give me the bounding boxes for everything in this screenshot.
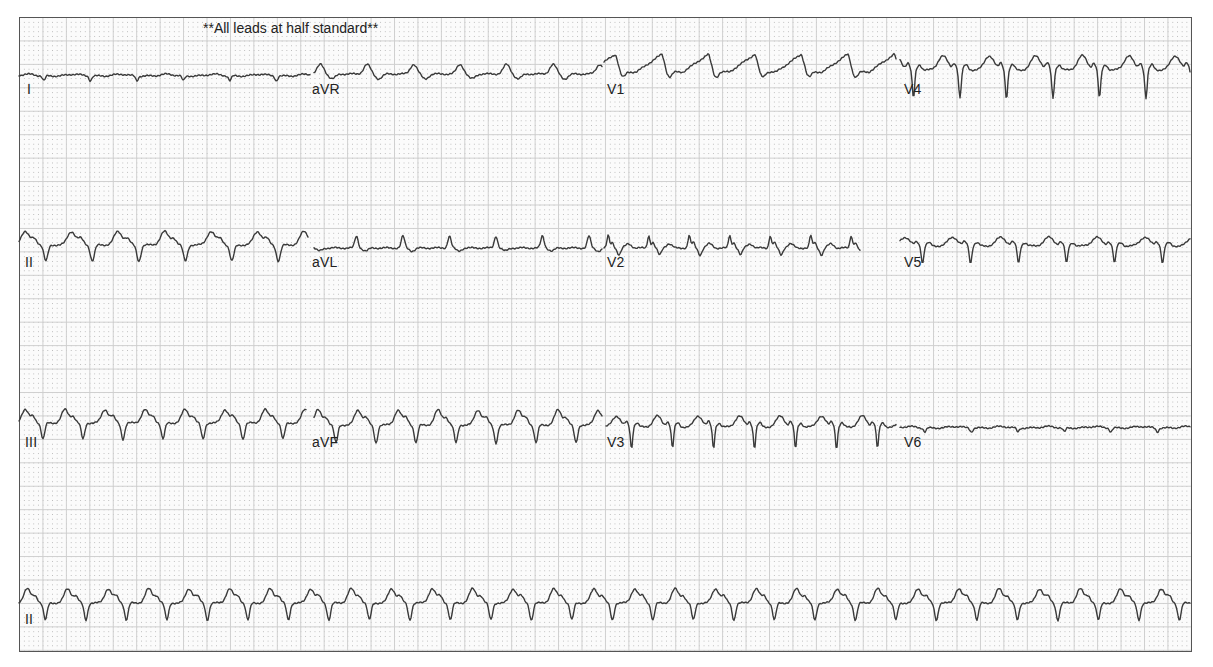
lead-label-V4: V4: [904, 81, 922, 97]
lead-label-aVL: aVL: [312, 254, 338, 270]
trace-aVL: [314, 236, 602, 252]
lead-label-V1: V1: [607, 81, 625, 97]
lead-label-aVR: aVR: [312, 81, 340, 97]
lead-label-II: II: [25, 254, 33, 270]
lead-label-III: III: [25, 434, 37, 450]
trace-V4: [900, 55, 1190, 99]
ecg-traces: [0, 0, 1213, 667]
trace-V6: [900, 426, 1190, 433]
trace-III: [19, 409, 306, 441]
trace-V2: [604, 235, 860, 256]
trace-aVR: [314, 64, 602, 80]
trace-V5: [900, 236, 1190, 262]
lead-label-I: I: [27, 81, 31, 97]
trace-I: [19, 73, 310, 81]
lead-label-V3: V3: [607, 434, 625, 450]
lead-label-aVF: aVF: [312, 434, 338, 450]
trace-II_rhythm: [19, 588, 1190, 621]
lead-label-II-rhythm: II: [25, 611, 33, 627]
lead-label-V6: V6: [904, 434, 922, 450]
trace-aVF: [314, 409, 602, 444]
trace-II: [19, 231, 308, 262]
lead-label-V2: V2: [607, 254, 625, 270]
trace-V1: [604, 54, 896, 78]
trace-V3: [606, 415, 896, 447]
lead-label-V5: V5: [904, 254, 922, 270]
